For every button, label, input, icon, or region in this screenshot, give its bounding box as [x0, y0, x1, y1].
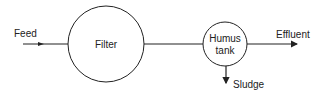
humus-tank-label-line2: tank	[216, 45, 236, 56]
effluent-label: Effluent	[276, 29, 310, 40]
feed-arrow-icon	[38, 42, 44, 46]
humus-tank-node	[203, 22, 247, 66]
feed-label: Feed	[14, 28, 37, 39]
process-flow-diagram: Feed Filter Humus tank Effluent Sludge	[0, 0, 325, 97]
diagram-svg: Feed Filter Humus tank Effluent Sludge	[0, 0, 325, 97]
sludge-label: Sludge	[233, 79, 265, 90]
humus-tank-label-line1: Humus	[209, 33, 241, 44]
filter-label: Filter	[95, 39, 118, 50]
